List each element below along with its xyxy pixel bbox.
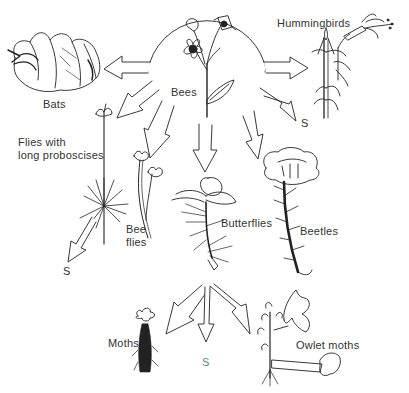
- label-bee-flies-line2: flies: [126, 236, 147, 249]
- label-self-right: S: [301, 117, 309, 130]
- arrow-to-owlet-moths: [210, 284, 250, 334]
- label-beetles: Beetles: [300, 225, 338, 238]
- label-moths: Moths: [108, 337, 139, 350]
- arrow-to-hummingbirds: [264, 57, 308, 79]
- label-flies-line1: Flies with: [18, 136, 66, 149]
- flies-long-proboscises-flower-icon: [80, 104, 128, 244]
- arrow-to-beetles: [243, 111, 263, 159]
- pollination-evolution-diagram: Bees Bats Hummingbirds Flies with long p…: [0, 0, 409, 393]
- butterfly-offshoot-arrows: [166, 284, 250, 342]
- beetles-flower-icon: [264, 148, 319, 275]
- label-hummingbirds: Hummingbirds: [277, 17, 350, 30]
- label-bats: Bats: [43, 98, 66, 111]
- arrow-to-self-right: [260, 88, 296, 121]
- label-self-bottom: S: [202, 356, 210, 369]
- label-flies-line2: long proboscises: [18, 149, 104, 162]
- arrow-to-butterflies: [193, 124, 217, 172]
- label-bees: Bees: [171, 86, 197, 99]
- arrow-to-bee-flies: [144, 101, 174, 158]
- diagram-artwork: [0, 0, 409, 393]
- arrow-flies-to-self: [68, 217, 96, 262]
- label-butterflies: Butterflies: [221, 217, 272, 230]
- label-self-flies: S: [63, 265, 71, 278]
- arrow-to-bats: [104, 56, 150, 79]
- arrow-to-flies: [117, 81, 159, 118]
- bees-semicircle: [150, 21, 264, 62]
- label-owlet-moths: Owlet moths: [296, 339, 359, 352]
- label-bee-flies-line1: Bee: [126, 223, 146, 236]
- bee-flower-icon: [184, 16, 236, 117]
- owlet-moths-flower-icon: [258, 290, 341, 386]
- bats-flower-icon: [8, 33, 100, 92]
